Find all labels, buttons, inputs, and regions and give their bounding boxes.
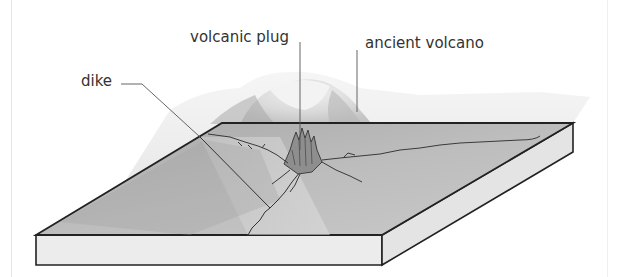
slab-front-face	[36, 235, 382, 265]
dike-label: dike	[81, 72, 112, 90]
ancient-volcano-label: ancient volcano	[365, 34, 484, 52]
block-diagram: volcanic plug ancient volcano dike	[0, 0, 620, 277]
volcanic-plug-label: volcanic plug	[190, 28, 289, 46]
